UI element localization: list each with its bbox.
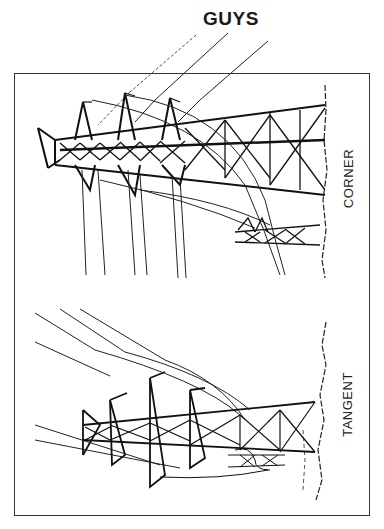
tangent-label: TANGENT [340,370,355,440]
corner-label: CORNER [341,149,356,209]
diagram-frame [14,73,370,516]
